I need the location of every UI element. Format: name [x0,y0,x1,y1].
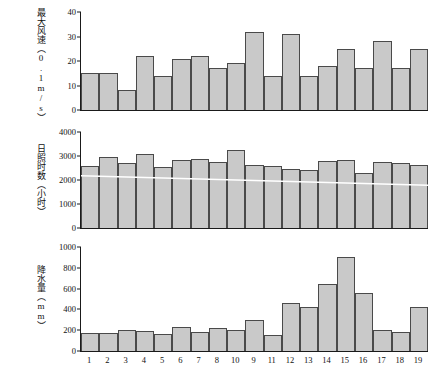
bar [209,68,227,110]
y-tick-label: 200 [63,325,76,335]
x-tick-label: 9 [244,355,262,365]
bar [282,169,300,228]
bar [136,154,154,228]
bar [245,165,263,228]
bar [300,307,318,351]
x-tick-label: 10 [226,355,244,365]
y-tick-label: 4000 [59,127,76,137]
x-tick-label: 3 [117,355,135,365]
bar [154,334,172,351]
bar [282,34,300,110]
y-axis-label-precipitation: 降水量（mm） [12,243,46,351]
bar [191,56,209,110]
y-tick-label: 0 [72,223,76,233]
y-tick-label: 600 [63,284,76,294]
bar [191,159,209,228]
x-tick-label: 14 [317,355,335,365]
x-tick-label: 8 [208,355,226,365]
bar [227,150,245,228]
bar [355,173,373,228]
plot-area-wind [80,12,428,111]
bar [136,56,154,110]
y-tick-label: 1000 [59,242,76,252]
x-tick-label: 19 [409,355,427,365]
bar [300,170,318,228]
bar [245,32,263,110]
y-tick-label: 2000 [59,175,76,185]
y-tick-label: 400 [63,304,76,314]
x-tick-label: 2 [98,355,116,365]
bar [264,76,282,110]
x-tick-label: 12 [281,355,299,365]
panel-precipitation: 降水量（mm） 02004006008001000 12345678109111… [0,239,429,379]
bar-series-wind [81,12,428,110]
y-tick-label: 3000 [59,151,76,161]
bar [410,307,428,351]
bar [355,68,373,110]
bar [245,320,263,351]
y-tick-label: 800 [63,263,76,273]
y-tick-label: 0 [72,105,76,115]
y-axis-label-sunshine: 日照时数（小时） [12,128,46,232]
x-tick-label: 6 [171,355,189,365]
bar [99,333,117,351]
y-axis-label-sunshine-text: 日照时数（小时） [36,144,46,216]
x-tick-label: 5 [153,355,171,365]
x-tick-label: 13 [299,355,317,365]
bar [392,68,410,110]
x-tick-label: 11 [263,355,281,365]
bar [282,303,300,351]
bar [318,161,336,228]
bar [373,330,391,351]
plot-area-precipitation [80,247,428,352]
bar [99,157,117,228]
x-axis-category-labels: 12345678109111213141516171819 [80,355,427,365]
bar [81,73,99,110]
bar [355,293,373,351]
bar [118,163,136,228]
bar-series-precipitation [81,247,428,351]
bar [172,327,190,351]
bar [136,331,154,351]
bar [172,160,190,228]
bar [337,257,355,351]
bar [209,328,227,351]
y-axis-label-precipitation-text: 降水量（mm） [36,265,46,330]
y-axis-ticks-precipitation: 02004006008001000 [46,247,76,351]
x-tick-label: 16 [354,355,372,365]
three-panel-bar-chart-figure: 最大风速（0.1m/s） 010203040 日照时数（小时） 01000200… [0,0,429,379]
bar [318,66,336,110]
x-tick-label: 1 [80,355,98,365]
x-tick-label: 15 [336,355,354,365]
x-tick-label: 4 [135,355,153,365]
bar [227,330,245,351]
bar [410,165,428,228]
x-tick-label: 17 [372,355,390,365]
y-axis-label-wind-text: 最大风速（0.1m/s） [36,8,46,122]
panel-sunshine-hours: 日照时数（小时） 01000200030004000 [0,124,429,239]
bar [373,162,391,228]
y-axis-label-wind: 最大风速（0.1m/s） [12,8,46,114]
bar [172,59,190,110]
bar [81,333,99,351]
bar [99,73,117,110]
y-axis-ticks-wind: 010203040 [46,12,76,110]
bar [209,162,227,228]
bar [227,63,245,110]
bar [154,76,172,110]
y-tick-label: 40 [68,7,77,17]
bar [392,163,410,228]
bar [191,332,209,351]
bar [410,49,428,110]
plot-area-sunshine [80,132,428,229]
bar [81,166,99,228]
panel-max-wind-speed: 最大风速（0.1m/s） 010203040 [0,0,429,124]
x-tick-label: 7 [190,355,208,365]
bar [337,160,355,228]
bar [118,330,136,351]
bar [318,284,336,351]
bar [373,41,391,110]
x-tick-label: 18 [391,355,409,365]
y-axis-ticks-sunshine: 01000200030004000 [46,132,76,228]
bar [392,332,410,351]
